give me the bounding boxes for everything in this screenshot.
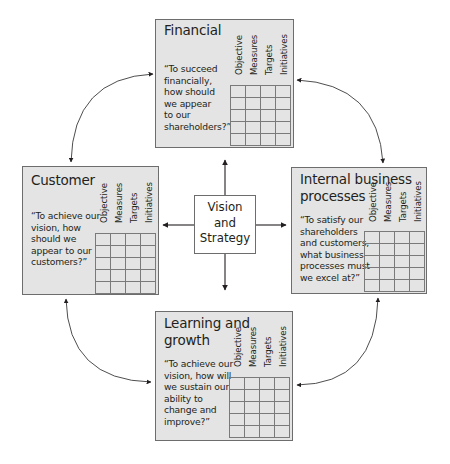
curve-financial-internal <box>297 80 383 163</box>
question-line: to our <box>164 109 231 121</box>
grid-cell <box>261 122 276 134</box>
perspective-title: Customer <box>31 172 95 188</box>
question-line: how should <box>164 86 231 98</box>
grid-cell <box>111 270 126 282</box>
question-line: shareholders?” <box>164 121 231 133</box>
scorecard-grid <box>364 231 425 292</box>
grid-cell <box>395 244 410 256</box>
grid-cell <box>111 246 126 258</box>
grid-cell <box>246 98 261 110</box>
question-line: ability to <box>164 393 233 405</box>
table-header: Measures <box>111 181 126 233</box>
grid-cell <box>126 234 141 246</box>
grid-cell <box>261 110 276 122</box>
grid-cell <box>365 268 380 280</box>
grid-cell <box>230 378 245 390</box>
grid-cell <box>96 234 111 246</box>
grid-cell <box>395 280 410 292</box>
grid-cell <box>276 86 291 98</box>
perspective-customer: Customer “To achieve our vision, how sho… <box>22 166 159 295</box>
question-line: customers?” <box>31 256 100 268</box>
grid-cell <box>365 244 380 256</box>
grid-cell <box>275 378 290 390</box>
table-headers: Objective Measures Targets Initiatives <box>230 325 291 377</box>
grid-cell <box>245 378 260 390</box>
grid-cell <box>126 270 141 282</box>
grid-cell <box>111 234 126 246</box>
grid-cell <box>261 86 276 98</box>
grid-cell <box>231 134 246 146</box>
grid-cell <box>260 378 275 390</box>
table-header: Measures <box>380 180 395 232</box>
grid-cell <box>246 110 261 122</box>
question-line: financially, <box>164 75 231 87</box>
grid-cell <box>276 98 291 110</box>
table-header: Targets <box>395 180 410 232</box>
question-line: improve?” <box>164 416 233 428</box>
grid-cell <box>126 282 141 294</box>
question-line: should we <box>31 233 100 245</box>
grid-cell <box>380 256 395 268</box>
grid-cell <box>245 414 260 426</box>
table-headers: Objective Measures Targets Initiatives <box>365 180 426 232</box>
perspective-question: “To achieve our vision, how will we sust… <box>164 358 233 428</box>
grid-cell <box>275 390 290 402</box>
grid-cell <box>275 402 290 414</box>
grid-cell <box>246 86 261 98</box>
grid-cell <box>246 134 261 146</box>
grid-cell <box>275 426 290 438</box>
grid-cell <box>245 426 260 438</box>
grid-cell <box>231 122 246 134</box>
grid-cell <box>245 390 260 402</box>
question-line: what business <box>300 249 370 261</box>
grid-cell <box>276 134 291 146</box>
grid-cell <box>380 268 395 280</box>
grid-cell <box>96 258 111 270</box>
grid-cell <box>111 282 126 294</box>
grid-cell <box>410 244 425 256</box>
grid-cell <box>231 110 246 122</box>
grid-cell <box>126 258 141 270</box>
table-header: Objective <box>96 181 111 233</box>
grid-cell <box>276 122 291 134</box>
grid-cell <box>276 110 291 122</box>
question-line: vision, how <box>31 222 100 234</box>
curve-financial-customer <box>71 74 153 162</box>
grid-cell <box>380 280 395 292</box>
scorecard-grid <box>95 233 156 294</box>
grid-cell <box>246 122 261 134</box>
grid-cell <box>260 402 275 414</box>
table-header: Initiatives <box>141 181 156 233</box>
grid-cell <box>380 232 395 244</box>
grid-cell <box>230 402 245 414</box>
grid-cell <box>231 98 246 110</box>
table-header: Measures <box>246 33 261 85</box>
grid-cell <box>230 390 245 402</box>
grid-cell <box>260 426 275 438</box>
question-line: “To achieve our <box>31 210 100 222</box>
question-line: we sustain our <box>164 381 233 393</box>
grid-cell <box>141 258 156 270</box>
grid-cell <box>410 268 425 280</box>
table-header: Targets <box>126 181 141 233</box>
vision-line: and <box>195 216 255 232</box>
grid-cell <box>96 282 111 294</box>
grid-cell <box>380 244 395 256</box>
grid-cell <box>365 232 380 244</box>
table-headers: Objective Measures Targets Initiatives <box>96 181 157 233</box>
perspective-financial: Financial “To succeed financially, how s… <box>155 19 294 148</box>
curve-customer-learning <box>66 299 151 382</box>
vision-and-strategy-box: Vision and Strategy <box>194 195 256 254</box>
grid-cell <box>141 282 156 294</box>
question-line: and customers, <box>300 237 370 249</box>
grid-cell <box>141 246 156 258</box>
question-line: appear to our <box>31 245 100 257</box>
scorecard-grid <box>229 377 290 438</box>
table-header: Objective <box>365 180 380 232</box>
grid-cell <box>410 280 425 292</box>
grid-cell <box>230 414 245 426</box>
vision-line: Strategy <box>195 231 255 247</box>
table-header: Measures <box>245 325 260 377</box>
grid-cell <box>245 402 260 414</box>
grid-cell <box>365 256 380 268</box>
